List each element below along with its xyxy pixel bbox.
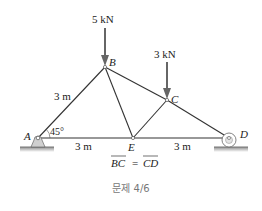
joints <box>103 65 168 139</box>
load-label-b: 5 kN <box>92 13 114 25</box>
member-ce <box>133 100 167 138</box>
member-ab <box>38 67 105 138</box>
node-label-c: C <box>171 93 179 105</box>
node-label-a: A <box>23 130 31 142</box>
condition-left: BC <box>111 157 126 169</box>
load-arrow-b-icon <box>101 28 109 66</box>
member-be <box>105 67 133 138</box>
truss-diagram: 5 kN 3 kN A B C D E 3 m 3 m 3 m 45° BC =… <box>0 0 262 211</box>
node-label-d: D <box>239 128 248 140</box>
dim-label-ed: 3 m <box>174 140 191 152</box>
node-label-b: B <box>109 56 116 68</box>
ground-a <box>20 147 54 152</box>
angle-label: 45° <box>50 126 64 137</box>
condition-right: CD <box>143 157 158 169</box>
member-bc <box>105 67 167 100</box>
ground-d <box>214 147 248 152</box>
dim-label-ab: 3 m <box>54 90 71 102</box>
condition-equation: BC = CD <box>111 156 158 169</box>
truss-members <box>38 67 229 138</box>
figure-caption: 문제 4/6 <box>112 183 149 194</box>
joint-e <box>131 136 134 139</box>
node-label-e: E <box>127 141 135 153</box>
condition-equals: = <box>132 157 138 169</box>
member-cd <box>167 100 229 138</box>
load-arrow-c-icon <box>163 62 171 99</box>
dim-label-ae: 3 m <box>75 140 92 152</box>
load-label-c: 3 kN <box>154 48 176 60</box>
